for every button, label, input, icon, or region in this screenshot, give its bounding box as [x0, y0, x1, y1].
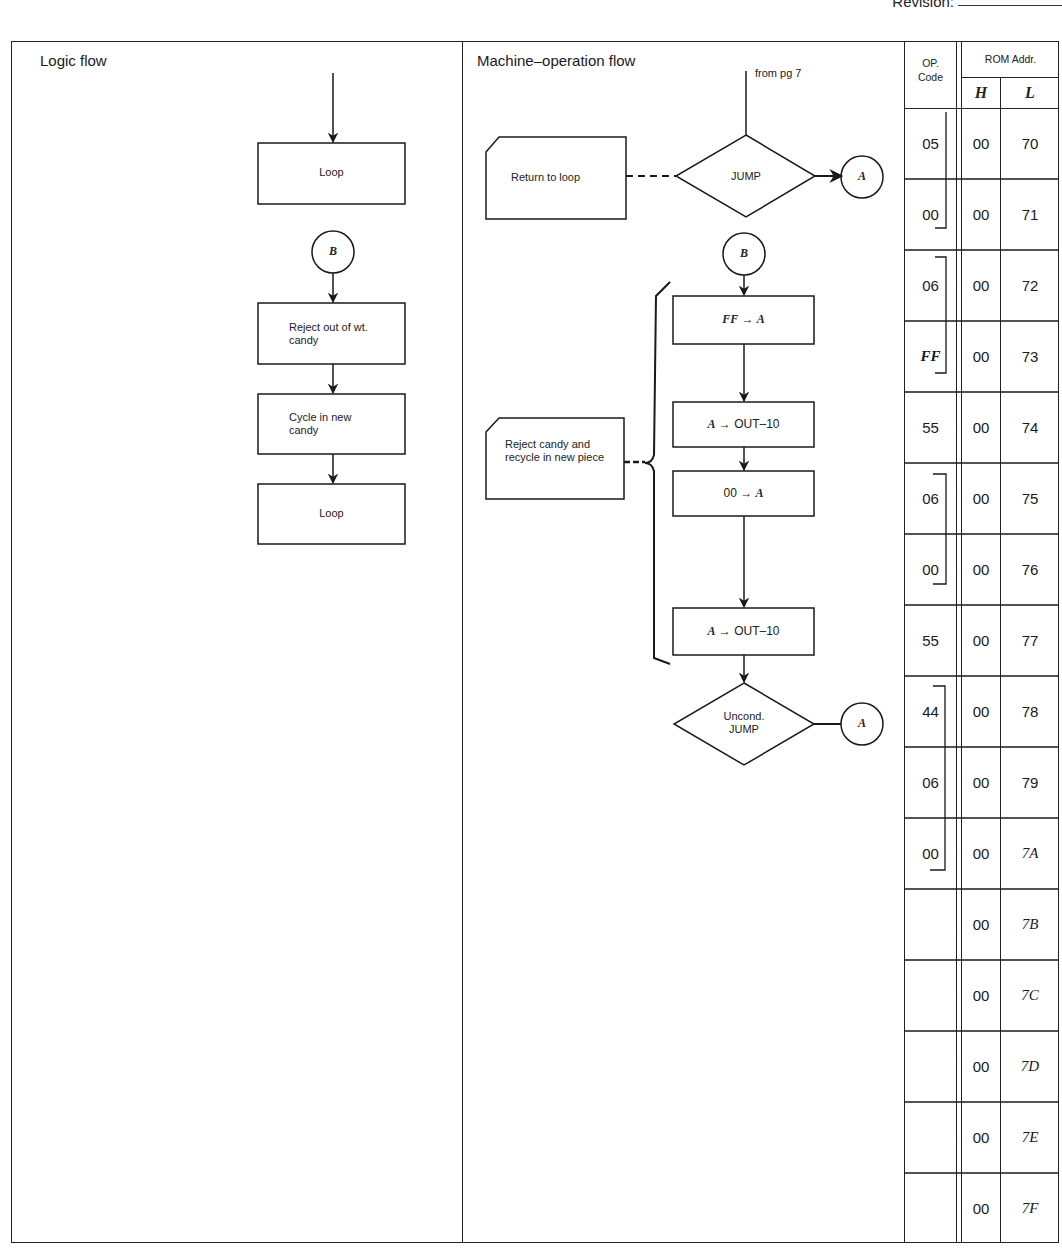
- step-lhs: A: [707, 417, 715, 431]
- decision-line1: Uncond.: [704, 710, 784, 723]
- logic-box-loop-2: Loop: [258, 507, 405, 520]
- step-lhs: A: [707, 624, 715, 638]
- connector-b: B: [724, 247, 764, 260]
- logic-box-cycle: Cycle in new candy: [289, 411, 379, 437]
- annotation-return-to-loop: Return to loop: [511, 171, 580, 184]
- step-rhs: OUT–10: [734, 624, 779, 638]
- step-a-to-out10-1: A → OUT–10: [673, 418, 814, 431]
- step-lhs: FF: [722, 312, 738, 326]
- step-rhs: A: [756, 486, 764, 500]
- logic-box-loop-1: Loop: [258, 166, 405, 179]
- arrow-icon: →: [719, 624, 731, 638]
- step-rhs: A: [757, 312, 765, 326]
- decision-jump: JUMP: [706, 170, 786, 183]
- arrow-icon: →: [742, 312, 754, 326]
- step-rhs: OUT–10: [734, 417, 779, 431]
- arrow-icon: →: [719, 417, 731, 431]
- arrow-icon: →: [740, 486, 752, 500]
- decision-uncond-jump: Uncond. JUMP: [704, 710, 784, 736]
- logic-box-reject: Reject out of wt. candy: [289, 321, 389, 347]
- connector-a-1: A: [842, 170, 882, 183]
- flowchart-linework: [0, 0, 1062, 1255]
- step-00-to-a: 00 → A: [673, 487, 814, 500]
- step-a-to-out10-2: A → OUT–10: [673, 625, 814, 638]
- entry-note: from pg 7: [755, 67, 801, 80]
- step-ff-to-a: FF → A: [673, 313, 814, 326]
- annotation-reject-candy: Reject candy and recycle in new piece: [505, 438, 613, 464]
- connector-a-2: A: [842, 717, 882, 730]
- step-lhs: 00: [723, 486, 736, 500]
- decision-line2: JUMP: [704, 723, 784, 736]
- logic-connector-b: B: [313, 245, 353, 258]
